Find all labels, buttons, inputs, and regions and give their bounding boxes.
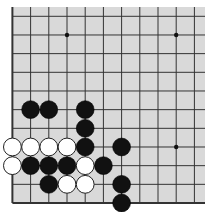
white-stone[interactable] bbox=[58, 175, 76, 193]
black-stone[interactable] bbox=[76, 119, 94, 137]
star-point bbox=[65, 33, 69, 37]
black-stone[interactable] bbox=[113, 138, 131, 156]
white-stone[interactable] bbox=[4, 157, 22, 175]
black-stone[interactable] bbox=[76, 138, 94, 156]
black-stone[interactable] bbox=[76, 101, 94, 119]
white-stone[interactable] bbox=[58, 138, 76, 156]
black-stone[interactable] bbox=[40, 101, 58, 119]
black-stone[interactable] bbox=[113, 175, 131, 193]
white-stone[interactable] bbox=[22, 138, 40, 156]
star-point bbox=[174, 33, 178, 37]
black-stone[interactable] bbox=[58, 157, 76, 175]
go-board[interactable] bbox=[0, 0, 212, 212]
white-stone[interactable] bbox=[40, 138, 58, 156]
white-stone[interactable] bbox=[76, 175, 94, 193]
black-stone[interactable] bbox=[95, 157, 113, 175]
black-stone[interactable] bbox=[113, 194, 131, 212]
black-stone[interactable] bbox=[40, 157, 58, 175]
black-stone[interactable] bbox=[22, 157, 40, 175]
black-stone[interactable] bbox=[22, 101, 40, 119]
star-point bbox=[174, 145, 178, 149]
white-stone[interactable] bbox=[76, 157, 94, 175]
white-stone[interactable] bbox=[4, 138, 22, 156]
black-stone[interactable] bbox=[40, 175, 58, 193]
